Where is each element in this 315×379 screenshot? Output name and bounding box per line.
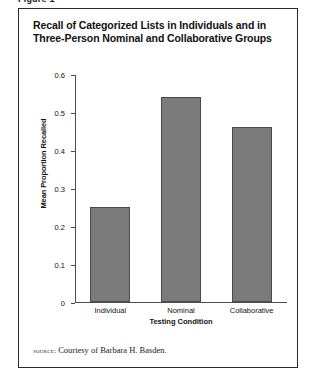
bar-collaborative[interactable] [232, 127, 272, 302]
source-note: source: Courtesy of Barbara H. Basden. [33, 345, 167, 355]
y-tick-label: 0 [61, 299, 65, 308]
y-tick-label: 0.5 [55, 109, 65, 118]
x-tick-label-collaborative: Collaborative [230, 306, 274, 315]
x-axis-line [75, 302, 287, 303]
figure-container: Recall of Categorized Lists in Individua… [18, 8, 298, 368]
source-label: source: [33, 347, 56, 354]
source-text: Courtesy of Barbara H. Basden. [58, 345, 167, 355]
y-tick-label: 0.4 [55, 147, 65, 156]
y-tick-label: 0.3 [55, 185, 65, 194]
y-axis-title: Mean Proportion Recalled [39, 104, 48, 224]
bar-slot-collaborative: Collaborative [217, 74, 287, 302]
x-axis-title: Testing Condition [75, 317, 287, 326]
y-tick-0: 0 [71, 303, 75, 304]
x-tick-label-nominal: Nominal [167, 306, 195, 315]
figure-caption-fragment: Figure 1 [18, 0, 55, 4]
bar-series: Individual Nominal Collaborative [75, 74, 287, 302]
x-tick-label-individual: Individual [94, 306, 126, 315]
y-tick-label: 0.6 [55, 71, 65, 80]
axes: 0.6 0.5 0.4 0.3 0.2 0.1 0 [75, 75, 287, 303]
bar-slot-individual: Individual [75, 74, 145, 302]
bar-nominal[interactable] [161, 97, 201, 302]
y-tick-label: 0.2 [55, 223, 65, 232]
chart-title: Recall of Categorized Lists in Individua… [33, 19, 285, 45]
plot-area: Mean Proportion Recalled 0.6 0.5 0.4 0.3… [19, 55, 297, 327]
bar-slot-nominal: Nominal [146, 74, 216, 302]
y-tick-label: 0.1 [55, 261, 65, 270]
bar-individual[interactable] [90, 207, 130, 302]
